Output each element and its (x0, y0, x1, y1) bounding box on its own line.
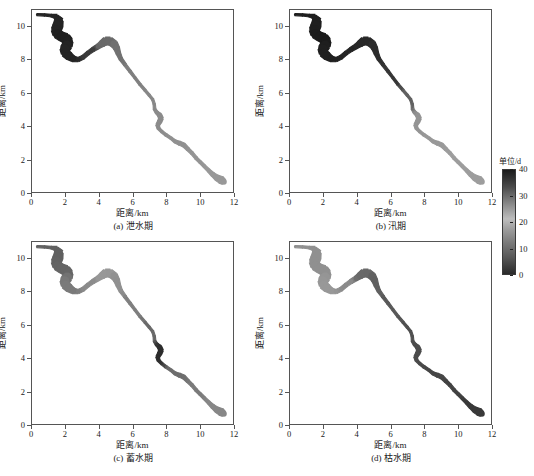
y-tick-label: 2 (269, 387, 283, 396)
y-tick (285, 258, 289, 259)
colorbar-tick-label: 10 (519, 244, 528, 253)
colorbar-gradient (502, 169, 516, 275)
y-tick (285, 358, 289, 359)
colorbar: 单位/d 403020100 (496, 158, 534, 283)
colorbar-tick (510, 169, 513, 170)
colorbar-title: 单位/d (499, 158, 521, 166)
figure-container: 0246810120246810距离/km距离/km(a) 泄水期0246810… (0, 0, 534, 476)
plot-area-d (289, 241, 492, 425)
colorbar-tick (510, 249, 513, 250)
river-raster-d (290, 242, 491, 424)
y-tick (285, 325, 289, 326)
colorbar-tick (510, 222, 513, 223)
x-tick-label: 8 (422, 430, 426, 439)
x-tick-label: 4 (355, 430, 359, 439)
y-tick-label: 10 (269, 253, 283, 262)
x-tick-label: 12 (488, 430, 497, 439)
x-axis-label: 距离/km (374, 441, 406, 450)
x-tick-label: 0 (287, 430, 291, 439)
y-tick (285, 291, 289, 292)
x-tick-label: 2 (321, 430, 325, 439)
colorbar-tick (510, 196, 513, 197)
y-axis-label: 距离/km (256, 317, 265, 349)
colorbar-tick-label: 40 (519, 165, 528, 174)
x-tick-label: 6 (388, 430, 392, 439)
x-tick-label: 10 (454, 430, 463, 439)
y-tick-label: 0 (269, 421, 283, 430)
panel-caption-d: (d) 枯水期 (371, 454, 411, 463)
colorbar-tick-label: 30 (519, 191, 528, 200)
y-tick (285, 425, 289, 426)
y-tick-label: 4 (269, 354, 283, 363)
y-tick (285, 392, 289, 393)
panel-d: 0246810120246810距离/km距离/km(d) 枯水期 (0, 0, 534, 476)
colorbar-tick-label: 20 (519, 218, 528, 227)
colorbar-tick (510, 275, 513, 276)
colorbar-tick-label: 0 (519, 271, 523, 280)
y-tick-label: 8 (269, 287, 283, 296)
y-tick-label: 6 (269, 320, 283, 329)
